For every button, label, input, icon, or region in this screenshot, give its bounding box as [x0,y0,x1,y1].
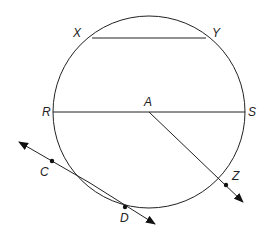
point-D [123,205,127,209]
label-Z: Z [231,169,240,183]
label-C: C [40,165,49,179]
label-A: A [143,95,152,109]
tangent-line-CD-back [19,142,90,183]
diagram-canvas: X Y R S A C D Z [0,0,269,235]
label-Y: Y [212,26,221,40]
label-D: D [120,211,129,225]
point-Z [224,183,228,187]
geometry-diagram: X Y R S A C D Z [0,0,269,235]
label-R: R [42,105,51,119]
label-S: S [248,105,256,119]
label-X: X [72,26,82,40]
point-C [50,159,54,163]
ray-AZ [149,112,243,202]
